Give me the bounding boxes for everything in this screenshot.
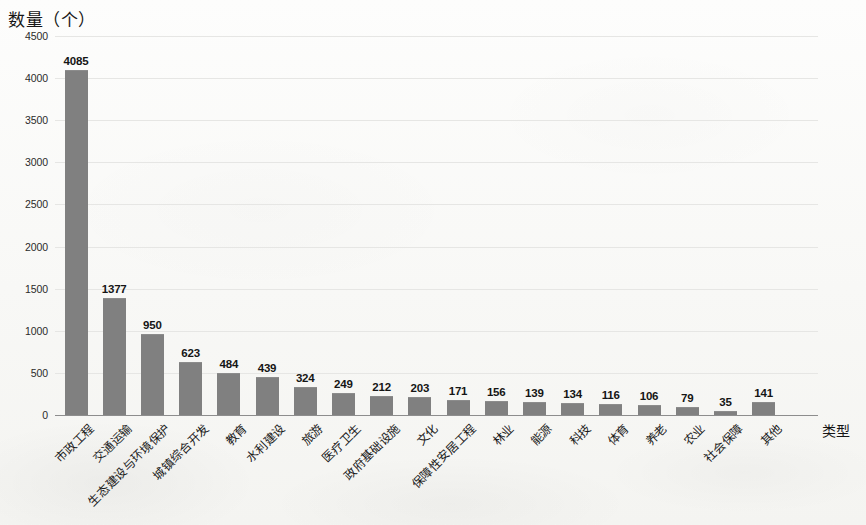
gridline xyxy=(55,162,818,163)
bar-value-label: 4085 xyxy=(50,55,102,67)
gridline xyxy=(55,247,818,248)
bar[interactable] xyxy=(294,387,317,415)
x-axis-category-label: 其他 xyxy=(755,419,784,448)
bar[interactable] xyxy=(408,397,431,415)
bar[interactable] xyxy=(447,400,470,415)
y-axis-tick-label: 4500 xyxy=(4,30,48,42)
x-axis-category-label: 林业 xyxy=(488,419,517,448)
gridline xyxy=(55,36,818,37)
x-axis-category-label: 体育 xyxy=(603,419,632,448)
x-axis-title: 类型 xyxy=(822,420,850,440)
y-axis-tick-label: 0 xyxy=(4,409,48,421)
bar-value-label: 950 xyxy=(126,319,178,331)
gridline xyxy=(55,120,818,121)
bar[interactable] xyxy=(752,402,775,415)
x-axis-category-label: 社会保障 xyxy=(700,419,747,466)
x-axis-category-label: 农业 xyxy=(679,419,708,448)
bar[interactable] xyxy=(561,403,584,415)
bar[interactable] xyxy=(141,334,164,415)
bar[interactable] xyxy=(599,404,622,415)
bar[interactable] xyxy=(332,393,355,415)
bar-value-label: 1377 xyxy=(88,283,140,295)
bar[interactable] xyxy=(638,405,661,415)
bar[interactable] xyxy=(676,407,699,415)
y-axis-tick-label: 1000 xyxy=(4,325,48,337)
gridline xyxy=(55,289,818,290)
bar[interactable] xyxy=(103,298,126,415)
bar[interactable] xyxy=(217,373,240,415)
y-axis-tick-label: 500 xyxy=(4,367,48,379)
bar-value-label: 141 xyxy=(738,387,790,399)
gridline xyxy=(55,373,818,374)
x-axis-category-label: 水利建设 xyxy=(241,419,288,466)
x-axis-category-label: 旅游 xyxy=(297,419,326,448)
bar-chart: 数量（个） 0500100015002000250030003500400045… xyxy=(0,0,866,525)
bar[interactable] xyxy=(256,377,279,415)
bar[interactable] xyxy=(179,362,202,416)
x-axis-category-label: 科技 xyxy=(564,419,593,448)
bar[interactable] xyxy=(65,70,88,415)
x-axis-line xyxy=(55,415,818,416)
y-axis-tick-label: 1500 xyxy=(4,283,48,295)
bar-value-label: 623 xyxy=(165,347,217,359)
x-axis-category-label: 养老 xyxy=(641,419,670,448)
bar[interactable] xyxy=(370,396,393,415)
bar[interactable] xyxy=(485,401,508,415)
gridline xyxy=(55,78,818,79)
bar[interactable] xyxy=(523,402,546,415)
y-axis-tick-label: 2500 xyxy=(4,198,48,210)
gridline xyxy=(55,204,818,205)
x-axis-category-label: 市政工程 xyxy=(50,419,97,466)
x-axis-category-label: 能源 xyxy=(526,419,555,448)
y-axis-tick-label: 3500 xyxy=(4,114,48,126)
y-axis-tick-label: 2000 xyxy=(4,241,48,253)
y-axis-tick-label: 3000 xyxy=(4,156,48,168)
x-axis-category-label: 教育 xyxy=(221,419,250,448)
y-axis-tick-label: 4000 xyxy=(4,72,48,84)
x-axis-category-label: 文化 xyxy=(412,419,441,448)
y-axis-title: 数量（个） xyxy=(8,6,96,31)
